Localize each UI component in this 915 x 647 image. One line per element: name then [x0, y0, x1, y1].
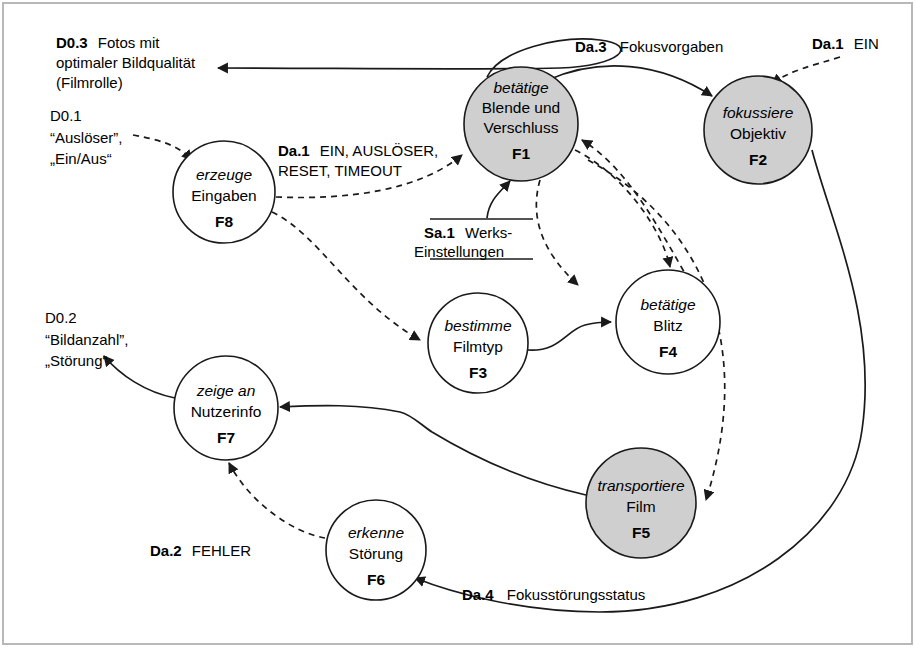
svg-text:Sa.1 Werks-: Sa.1 Werks- — [424, 224, 512, 241]
da1-right-id: Da.1 — [812, 35, 844, 52]
svg-text:Da.1 EIN, AUSLÖSER,: Da.1 EIN, AUSLÖSER, — [278, 142, 438, 159]
da2-text: FEHLER — [192, 542, 251, 559]
da1-left-id: Da.1 — [278, 142, 310, 159]
da1-left-line2: RESET, TIMEOUT — [278, 162, 402, 179]
flow-label-da3: Da.3 Fokusvorgaben — [575, 38, 723, 55]
d01-line1: “Auslöser”, — [50, 129, 123, 146]
labels-layer: D0.3 Fotos mit optimaler Bildqualität (F… — [0, 0, 915, 647]
da3-text: Fokusvorgaben — [620, 38, 723, 55]
d03-line2: optimaler Bildqualität — [56, 54, 196, 71]
da4-id: Da.4 — [462, 586, 494, 603]
d03-id: D0.3 — [56, 34, 88, 51]
svg-text:Da.3 Fokusvorgaben: Da.3 Fokusvorgaben — [575, 38, 723, 55]
da4-text: Fokusstörungsstatus — [507, 586, 645, 603]
flow-label-da2: Da.2 FEHLER — [150, 542, 251, 559]
flow-label-da1-left: Da.1 EIN, AUSLÖSER, RESET, TIMEOUT — [278, 142, 438, 179]
d02-line1: “Bildanzahl”, — [45, 331, 128, 348]
da2-id: Da.2 — [150, 542, 182, 559]
terminator-label-d03: D0.3 Fotos mit optimaler Bildqualität (F… — [56, 34, 196, 91]
terminator-label-d01: D0.1 “Auslöser”, „Ein/Aus“ — [50, 107, 123, 167]
sa1-line2: Einstellungen — [414, 243, 504, 260]
flow-label-da4: Da.4 Fokusstörungsstatus — [462, 586, 645, 603]
d02-line2: „Störung“ — [45, 352, 108, 369]
sa1-line1: Werks- — [465, 224, 512, 241]
data-store-label-sa1: Sa.1 Werks- Einstellungen — [414, 224, 512, 260]
d03-line3: (Filmrolle) — [56, 74, 123, 91]
d02-id: D0.2 — [45, 309, 77, 326]
da3-id: Da.3 — [575, 38, 607, 55]
svg-text:D0.3 Fotos mit: D0.3 Fotos mit — [56, 34, 160, 51]
d01-line2: „Ein/Aus“ — [50, 150, 112, 167]
svg-text:Da.2 FEHLER: Da.2 FEHLER — [150, 542, 251, 559]
da1-left-line1: EIN, AUSLÖSER, — [320, 142, 438, 159]
sa1-id: Sa.1 — [424, 224, 455, 241]
svg-text:Da.4 Fokusstörungsstat: Da.4 Fokusstörungsstatus — [462, 586, 645, 603]
flow-label-da1-right: Da.1 EIN — [812, 35, 879, 52]
d01-id: D0.1 — [50, 107, 82, 124]
svg-text:Da.1 EIN: Da.1 EIN — [812, 35, 879, 52]
da1-right-text: EIN — [854, 35, 879, 52]
d03-line1: Fotos mit — [98, 34, 161, 51]
terminator-label-d02: D0.2 “Bildanzahl”, „Störung“ — [45, 309, 128, 369]
diagram-canvas: betätige Blende und Verschluss F1 fokuss… — [0, 0, 915, 647]
